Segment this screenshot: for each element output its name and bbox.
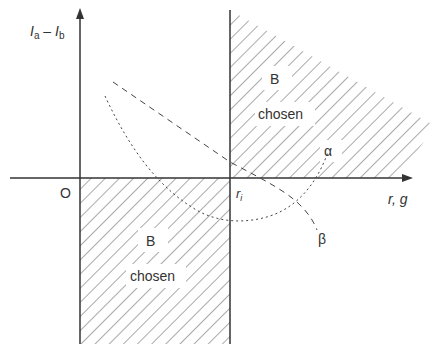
beta-label: β <box>318 231 326 247</box>
upper-region-label-b: B <box>270 71 279 87</box>
upper-region-label-chosen: chosen <box>258 106 303 122</box>
lower-b-chosen-region <box>80 178 230 344</box>
y-axis-arrow-icon <box>76 8 84 19</box>
threshold-label: ri <box>236 186 243 203</box>
x-axis-arrow-icon <box>402 174 413 182</box>
x-axis-label: r, g <box>388 191 408 207</box>
lower-region-label-chosen: chosen <box>130 268 175 284</box>
decision-diagram: Ia – Ib O ri r, g B chosen B chosen α β <box>0 0 440 360</box>
alpha-label: α <box>324 143 332 159</box>
origin-label: O <box>60 185 71 201</box>
y-axis-label: Ia – Ib <box>30 23 65 41</box>
lower-region-label-b: B <box>146 233 155 249</box>
